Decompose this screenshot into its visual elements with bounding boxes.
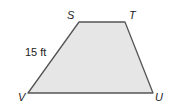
vertex-label-u: U xyxy=(155,91,163,103)
vertex-label-v: V xyxy=(18,91,27,103)
side-length-sv: 15 ft xyxy=(25,46,46,58)
vertex-label-s: S xyxy=(67,9,75,21)
vertex-label-t: T xyxy=(129,9,137,21)
trapezoid-diagram: S T U V 15 ft xyxy=(0,0,172,111)
trapezoid-stvu xyxy=(28,22,153,93)
